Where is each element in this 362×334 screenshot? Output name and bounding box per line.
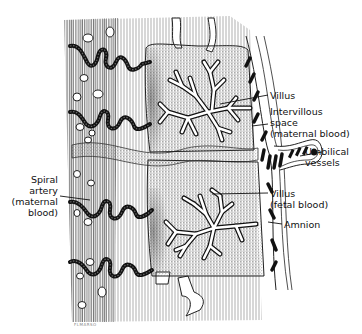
label-villus: Villus xyxy=(270,90,295,101)
label-intervillous-space: Intervillous space (maternal blood) xyxy=(270,106,350,139)
label-umbilical-vessels: Umbilical vessels xyxy=(305,146,349,168)
placenta-diagram: Villus Intervillous space (maternal bloo… xyxy=(0,0,362,334)
label-amnion: Amnion xyxy=(284,219,320,230)
label-villus-fetal-blood: Villus (fetal blood) xyxy=(270,188,328,210)
artist-signature: FLMARSO xyxy=(74,322,97,327)
label-spiral-artery: Spiral artery (maternal blood) xyxy=(4,174,58,218)
